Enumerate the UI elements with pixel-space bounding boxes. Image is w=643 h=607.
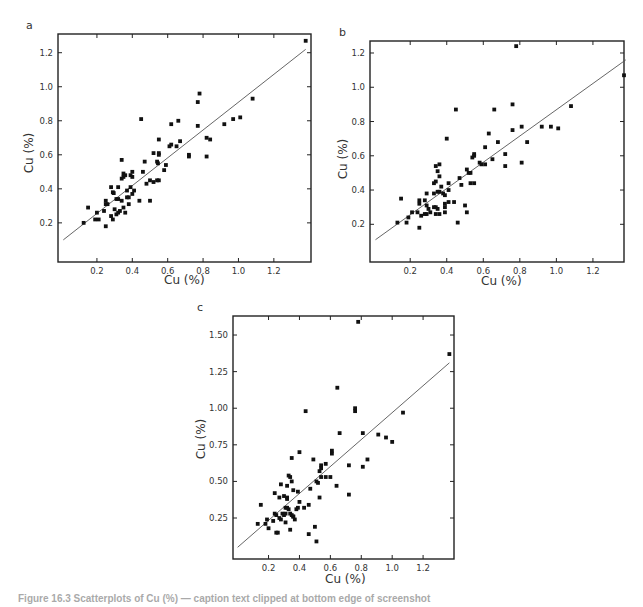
y-tick-label: 1.50 <box>209 330 228 340</box>
data-point-marker <box>264 522 268 526</box>
x-axis-label-c: Cu (%) <box>325 572 366 586</box>
data-point-marker <box>285 497 289 501</box>
data-point-marker <box>293 518 297 522</box>
data-point-marker <box>288 528 292 532</box>
data-point-marker <box>290 456 294 460</box>
data-point-marker <box>361 465 365 469</box>
data-point-marker <box>273 491 277 495</box>
data-point-marker <box>366 458 370 462</box>
x-tick-label: 1.0 <box>385 563 399 573</box>
data-point-marker <box>335 484 339 488</box>
data-point-marker <box>288 475 292 479</box>
data-point-marker <box>287 507 291 511</box>
data-point-marker <box>308 487 312 491</box>
y-tick-label: 0.50 <box>209 476 228 486</box>
data-point-marker <box>284 512 288 516</box>
data-point-marker <box>277 496 281 500</box>
data-point-marker <box>284 521 288 525</box>
data-point-marker <box>296 490 300 494</box>
data-point-marker <box>291 488 295 492</box>
data-point-marker <box>447 352 451 356</box>
x-tick-label: 1.2 <box>416 563 430 573</box>
data-point-marker <box>256 522 260 526</box>
data-point-marker <box>271 519 275 523</box>
data-point-marker <box>338 431 342 435</box>
data-point-marker <box>347 463 351 467</box>
data-point-marker <box>390 440 394 444</box>
data-point-marker <box>401 411 405 415</box>
data-point-marker <box>384 436 388 440</box>
data-point-marker <box>290 480 294 484</box>
data-point-marker <box>330 452 334 456</box>
data-point-marker <box>307 532 311 536</box>
y-tick-label: 0.25 <box>209 513 228 523</box>
data-point-marker <box>304 409 308 413</box>
data-point-marker <box>324 475 328 479</box>
data-point-marker <box>316 481 320 485</box>
data-point-marker <box>311 458 315 462</box>
data-point-marker <box>279 482 283 486</box>
data-point-marker <box>319 475 323 479</box>
data-point-marker <box>285 484 289 488</box>
data-point-marker <box>302 506 306 510</box>
data-point-marker <box>276 531 280 535</box>
y-axis-label-c: Cu (%) <box>194 416 208 462</box>
regression-line <box>238 363 450 547</box>
data-point-marker <box>265 518 269 522</box>
data-point-marker <box>356 320 360 324</box>
data-point-marker <box>259 503 263 507</box>
data-point-marker <box>376 433 380 437</box>
y-tick-label: 0.75 <box>209 440 228 450</box>
data-point-marker <box>307 503 311 507</box>
data-point-marker <box>324 462 328 466</box>
data-point-marker <box>313 525 317 529</box>
data-point-marker <box>347 493 351 497</box>
x-tick-label: 0.2 <box>262 563 276 573</box>
data-point-marker <box>353 409 357 413</box>
y-tick-label: 1.25 <box>209 367 228 377</box>
data-point-marker <box>267 526 271 530</box>
data-point-marker <box>298 500 302 504</box>
data-point-marker <box>318 496 322 500</box>
data-point-marker <box>315 540 319 544</box>
data-point-marker <box>328 475 332 479</box>
data-point-marker <box>296 506 300 510</box>
data-point-marker <box>298 450 302 454</box>
data-point-marker <box>319 466 323 470</box>
y-tick-label: 1.00 <box>209 403 228 413</box>
data-point-marker <box>279 518 283 522</box>
figure-caption: Figure 16.3 Scatterplots of Cu (%) — cap… <box>18 593 638 607</box>
data-point-marker <box>335 386 339 390</box>
x-tick-label: 0.4 <box>293 563 307 573</box>
data-point-marker <box>361 431 365 435</box>
